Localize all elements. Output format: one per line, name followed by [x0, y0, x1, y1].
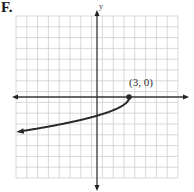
curve-arrow — [16, 128, 24, 134]
y-axis-label: y — [99, 2, 103, 11]
graph: y (3, 0) — [0, 0, 194, 192]
endpoint-dot — [126, 94, 132, 100]
point-label: (3, 0) — [129, 76, 153, 89]
x-axis-arrow-left — [12, 95, 18, 100]
x-axis-arrow-right — [183, 95, 189, 100]
y-axis-arrow-down — [95, 185, 100, 191]
